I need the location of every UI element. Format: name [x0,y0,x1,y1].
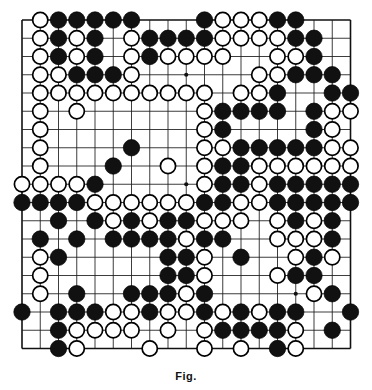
black-stone[interactable] [69,12,85,28]
white-stone[interactable] [124,304,139,319]
black-stone[interactable] [251,103,267,119]
white-stone[interactable] [124,323,139,338]
white-stone[interactable] [197,122,212,137]
white-stone[interactable] [124,195,139,210]
black-stone[interactable] [342,85,358,101]
black-stone[interactable] [87,48,103,64]
white-stone[interactable] [51,67,66,82]
black-stone[interactable] [288,304,304,320]
white-stone[interactable] [160,85,175,100]
black-stone[interactable] [288,30,304,46]
black-stone[interactable] [69,286,85,302]
white-stone[interactable] [160,304,175,319]
white-stone[interactable] [306,213,321,228]
black-stone[interactable] [233,249,249,265]
white-stone[interactable] [343,104,358,119]
black-stone[interactable] [251,140,267,156]
black-stone[interactable] [50,30,66,46]
black-stone[interactable] [50,12,66,28]
white-stone[interactable] [215,49,230,64]
white-stone[interactable] [69,177,84,192]
black-stone[interactable] [288,67,304,83]
white-stone[interactable] [33,250,48,265]
black-stone[interactable] [324,85,340,101]
white-stone[interactable] [33,49,48,64]
white-stone[interactable] [106,213,121,228]
black-stone[interactable] [69,231,85,247]
black-stone[interactable] [196,194,212,210]
white-stone[interactable] [343,158,358,173]
black-stone[interactable] [306,176,322,192]
black-stone[interactable] [306,103,322,119]
white-stone[interactable] [233,341,248,356]
black-stone[interactable] [324,286,340,302]
white-stone[interactable] [142,341,157,356]
white-stone[interactable] [124,67,139,82]
black-stone[interactable] [269,304,285,320]
black-stone[interactable] [50,249,66,265]
black-stone[interactable] [160,231,176,247]
black-stone[interactable] [233,158,249,174]
white-stone[interactable] [288,158,303,173]
black-stone[interactable] [342,194,358,210]
black-stone[interactable] [215,231,231,247]
white-stone[interactable] [288,323,303,338]
black-stone[interactable] [251,322,267,338]
black-stone[interactable] [105,67,121,83]
white-stone[interactable] [106,323,121,338]
white-stone[interactable] [233,195,248,210]
white-stone[interactable] [69,341,84,356]
white-stone[interactable] [306,231,321,246]
black-stone[interactable] [196,304,212,320]
black-stone[interactable] [269,176,285,192]
white-stone[interactable] [197,250,212,265]
black-stone[interactable] [142,30,158,46]
black-stone[interactable] [50,304,66,320]
white-stone[interactable] [33,85,48,100]
black-stone[interactable] [105,12,121,28]
white-stone[interactable] [197,177,212,192]
white-stone[interactable] [69,85,84,100]
white-stone[interactable] [215,31,230,46]
white-stone[interactable] [252,177,267,192]
white-stone[interactable] [179,85,194,100]
black-stone[interactable] [233,322,249,338]
white-stone[interactable] [252,304,267,319]
white-stone[interactable] [179,286,194,301]
black-stone[interactable] [342,304,358,320]
black-stone[interactable] [160,286,176,302]
white-stone[interactable] [233,85,248,100]
black-stone[interactable] [196,231,212,247]
white-stone[interactable] [69,49,84,64]
white-stone[interactable] [69,104,84,119]
white-stone[interactable] [306,286,321,301]
white-stone[interactable] [270,31,285,46]
white-stone[interactable] [51,177,66,192]
black-stone[interactable] [306,140,322,156]
black-stone[interactable] [288,140,304,156]
white-stone[interactable] [215,140,230,155]
black-stone[interactable] [306,194,322,210]
white-stone[interactable] [197,158,212,173]
white-stone[interactable] [33,177,48,192]
white-stone[interactable] [87,85,102,100]
white-stone[interactable] [270,67,285,82]
white-stone[interactable] [33,286,48,301]
black-stone[interactable] [87,304,103,320]
black-stone[interactable] [178,249,194,265]
black-stone[interactable] [269,85,285,101]
black-stone[interactable] [324,67,340,83]
white-stone[interactable] [270,49,285,64]
black-stone[interactable] [69,194,85,210]
white-stone[interactable] [160,158,175,173]
go-board-canvas[interactable] [0,0,372,366]
white-stone[interactable] [197,85,212,100]
white-stone[interactable] [252,67,267,82]
white-stone[interactable] [215,304,230,319]
black-stone[interactable] [215,158,231,174]
white-stone[interactable] [33,67,48,82]
go-board-container[interactable] [0,0,372,366]
white-stone[interactable] [160,323,175,338]
white-stone[interactable] [270,158,285,173]
white-stone[interactable] [197,323,212,338]
